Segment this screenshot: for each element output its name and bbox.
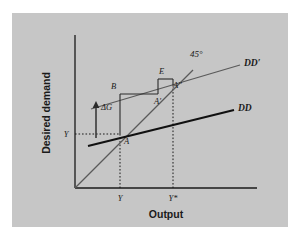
figure-panel: A B A′ A″ E DD′ DD 45° ΔG Y Y Y* <box>12 13 288 227</box>
point-label-A-double-prime: A″ <box>172 80 182 90</box>
curve-labels-group: DD′ DD <box>237 58 261 113</box>
forty-five-degree-label: 45° <box>190 49 203 59</box>
dd-curve-group <box>88 110 234 146</box>
dd-curve <box>88 110 234 146</box>
curve-label-dd: DD <box>237 103 252 113</box>
tick-labels-group: Y Y Y* <box>64 129 179 203</box>
keynesian-cross-diagram: A B A′ A″ E DD′ DD 45° ΔG Y Y Y* <box>12 13 288 227</box>
axis-titles-group: Output Desired demand <box>40 72 184 220</box>
x-axis-title: Output <box>149 208 184 220</box>
delta-g-label: ΔG <box>100 102 112 112</box>
point-labels-group: A B A′ A″ E <box>111 66 182 146</box>
point-label-E: E <box>158 66 165 76</box>
delta-g-arrow-head <box>93 101 100 108</box>
y-axis-tick-label-Y: Y <box>64 129 70 139</box>
point-label-B: B <box>111 81 116 91</box>
x-axis-tick-label-Ystar: Y* <box>169 193 179 203</box>
curve-label-dd-prime: DD′ <box>243 58 261 68</box>
point-label-A: A <box>123 136 130 146</box>
delta-g-arrow-group <box>93 101 100 138</box>
x-axis-tick-label-Y: Y <box>118 193 124 203</box>
point-label-A-prime: A′ <box>153 96 161 106</box>
y-axis-title: Desired demand <box>40 72 52 154</box>
figure-root: A B A′ A″ E DD′ DD 45° ΔG Y Y Y* <box>0 0 300 238</box>
